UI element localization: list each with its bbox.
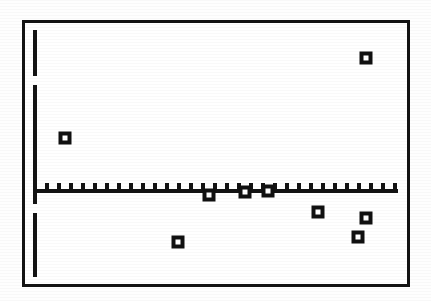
x-axis-tick <box>45 183 49 189</box>
data-point-marker <box>262 185 275 198</box>
x-axis-tick <box>33 183 37 189</box>
data-point-marker <box>59 132 72 145</box>
x-axis-tick <box>189 183 193 189</box>
x-axis-tick <box>357 183 361 189</box>
x-axis-tick <box>297 183 301 189</box>
x-axis-tick <box>81 183 85 189</box>
x-axis-tick <box>345 183 349 189</box>
data-point-marker <box>360 52 373 65</box>
data-point-marker <box>203 189 216 202</box>
x-axis-tick <box>381 183 385 189</box>
data-point-marker <box>239 186 252 199</box>
x-axis-tick <box>129 183 133 189</box>
x-axis-tick <box>57 183 61 189</box>
x-axis-tick <box>141 183 145 189</box>
x-axis-baseline <box>33 189 398 193</box>
data-point-marker <box>352 231 365 244</box>
x-axis-tick <box>93 183 97 189</box>
x-axis-tick <box>285 183 289 189</box>
y-axis-segment <box>33 30 37 76</box>
plot-area <box>25 23 407 284</box>
x-axis-tick <box>321 183 325 189</box>
data-point-marker <box>360 212 373 225</box>
data-point-marker <box>312 206 325 219</box>
x-axis-tick <box>69 183 73 189</box>
x-axis-tick <box>333 183 337 189</box>
x-axis-tick <box>117 183 121 189</box>
scanned-figure <box>0 0 431 301</box>
x-axis-tick <box>393 183 397 189</box>
y-axis-segment <box>33 213 37 277</box>
x-axis-tick <box>177 183 181 189</box>
x-axis-tick <box>153 183 157 189</box>
x-axis-tick <box>225 183 229 189</box>
x-axis-tick <box>105 183 109 189</box>
x-axis-tick <box>309 183 313 189</box>
x-axis-tick <box>165 183 169 189</box>
x-axis-tick <box>369 183 373 189</box>
data-point-marker <box>172 236 185 249</box>
